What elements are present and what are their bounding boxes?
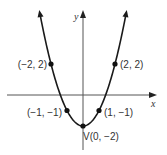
y-axis-label: y — [73, 11, 79, 22]
data-point-label: (2, 2) — [120, 59, 143, 70]
data-point-marker — [64, 108, 69, 113]
data-point-marker — [80, 123, 85, 128]
y-axis-arrow-icon — [80, 10, 86, 18]
curve-arrow-right-icon — [123, 10, 129, 17]
data-point-marker — [48, 61, 53, 66]
x-axis-label: x — [150, 98, 156, 109]
data-point-label: V(0, −2) — [83, 131, 119, 142]
data-point-marker — [96, 108, 101, 113]
data-point-label: (−1, −1) — [27, 107, 62, 118]
data-points: (−2, 2)(−1, −1)V(0, −2)(1, −1)(2, 2) — [18, 59, 144, 142]
parabola-plot: x y (−2, 2)(−1, −1)V(0, −2)(1, −1)(2, 2) — [0, 0, 167, 155]
data-point-marker — [112, 61, 117, 66]
data-point-label: (−2, 2) — [18, 59, 47, 70]
data-point-label: (1, −1) — [104, 107, 133, 118]
y-axis: y — [73, 10, 86, 150]
curve-arrow-left-icon — [38, 10, 44, 17]
